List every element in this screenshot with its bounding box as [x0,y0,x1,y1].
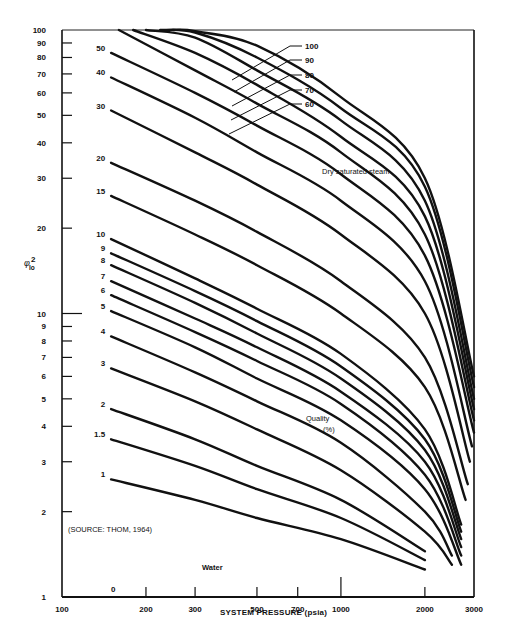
curve-label: 4 [101,327,106,336]
curve-label: 0 [111,585,116,594]
x-tick-label: 200 [139,605,153,614]
x-tick-label: 2000 [416,605,434,614]
curve-label: 8 [101,256,106,265]
y-tick-label: 40 [37,139,46,148]
curve-label: 50 [96,44,105,53]
curve-label: 9 [101,244,106,253]
y-tick-label: 10 [37,310,46,319]
chart: 123456789102030405060708090100 100200300… [0,0,505,635]
curve-label: 60 [305,100,314,109]
curve-label: 7 [101,272,106,281]
curve-label: 90 [305,56,314,65]
y-tick-label: 2 [42,508,47,517]
curve-label: 1.5 [94,430,106,439]
curve-label: 80 [305,71,314,80]
y-tick-label: 5 [42,395,47,404]
y-tick-label: 6 [42,372,47,381]
curve-quality-1_5 [111,439,425,560]
source-label: (SOURCE: THOM, 1964) [68,525,153,534]
dry-steam-label: Dry saturated steam [322,167,390,176]
curve-label: 20 [96,154,105,163]
y-tick-label: 50 [37,111,46,120]
y-tick-label: 3 [42,458,47,467]
curve-label: 70 [305,86,314,95]
y-tick-label: 8 [42,337,47,346]
leader-lines: 10090807060 [229,42,319,134]
y-tick-label: 90 [37,39,46,48]
curve-quality-50 [111,53,474,433]
x-tick-label: 3000 [465,605,483,614]
curve-quality-90 [160,30,474,387]
y-tick-label: 100 [33,26,47,35]
quality-label: Quality [306,414,330,423]
x-axis-title: SYSTEM PRESSURE (psia) [220,608,327,617]
curve-label: 2 [101,400,106,409]
y-axis-title-sub: lo [29,264,35,271]
curve-label: 30 [96,102,105,111]
curve-label: 10 [96,230,105,239]
curve-label: 5 [101,302,106,311]
y-axis: 123456789102030405060708090100 [33,26,82,602]
y-tick-label: 9 [42,322,47,331]
y-axis-title-sup: 2 [31,255,36,264]
y-tick-label: 1 [42,593,47,602]
curve-labels: 011.523456789101520304050 [94,44,116,594]
curve-quality-4 [111,336,452,555]
curve-label: 1 [101,470,106,479]
quality-unit-label: (%) [323,425,335,434]
curve-label: 6 [101,286,106,295]
y-tick-label: 70 [37,70,46,79]
curve-label: 15 [96,187,105,196]
quality-curves [111,30,474,570]
y-tick-label: 80 [37,53,46,62]
water-label: Water [202,563,223,572]
y-tick-label: 60 [37,89,46,98]
y-tick-label: 20 [37,224,46,233]
y-tick-label: 4 [42,422,47,431]
curve-label: 100 [305,42,319,51]
x-tick-label: 300 [188,605,202,614]
y-tick-label: 30 [37,174,46,183]
x-tick-label: 100 [55,605,69,614]
x-tick-label: 1000 [332,605,350,614]
curve-label: 3 [101,359,106,368]
curve-quality-40 [111,78,472,447]
curve-label: 40 [96,68,105,77]
y-tick-label: 7 [42,353,47,362]
